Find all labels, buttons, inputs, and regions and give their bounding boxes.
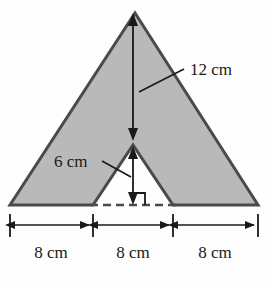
outer-triangle-path bbox=[10, 13, 258, 205]
shaded-arrowhead-shape bbox=[10, 13, 258, 205]
label-height-12cm: 12 cm bbox=[190, 60, 232, 79]
label-base-segment-2: 8 cm bbox=[116, 243, 150, 262]
figure-canvas: 12 cm 6 cm 8 cm 8 cm 8 cm bbox=[0, 0, 271, 289]
label-base-segment-3: 8 cm bbox=[198, 243, 232, 262]
label-height-6cm: 6 cm bbox=[54, 152, 88, 171]
arrowhead-down-6cm bbox=[128, 192, 138, 205]
geometry-figure: 12 cm 6 cm 8 cm 8 cm 8 cm bbox=[0, 0, 271, 289]
label-base-segment-1: 8 cm bbox=[34, 243, 68, 262]
